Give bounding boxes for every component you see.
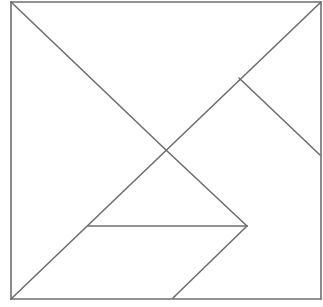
tangram-diagram xyxy=(0,0,323,307)
